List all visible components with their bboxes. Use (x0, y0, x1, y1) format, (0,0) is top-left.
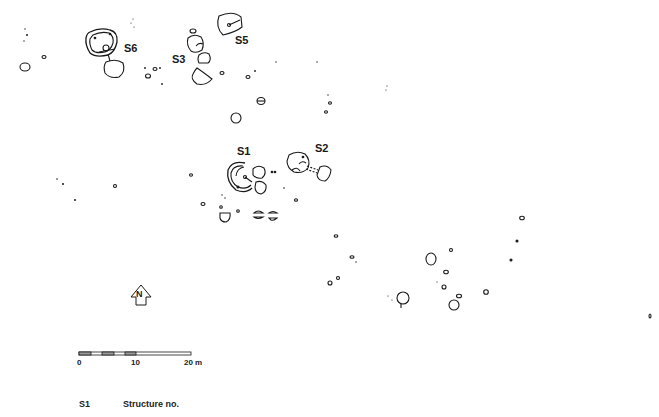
post-holes (20, 56, 651, 319)
scale-tick-20: 20 m (184, 358, 202, 367)
structure-s1-outline (228, 162, 276, 194)
structure-s2-outline (287, 152, 331, 181)
scale-bar (79, 352, 191, 355)
north-label: N (136, 289, 143, 299)
label-s3: S3 (172, 53, 185, 65)
label-s5: S5 (235, 34, 248, 46)
structure-s3-outline (187, 29, 212, 84)
structure-s6-outline (86, 29, 124, 78)
label-s1: S1 (237, 145, 250, 157)
label-s2: S2 (315, 142, 328, 154)
legend-description: Structure no. (123, 399, 179, 409)
scale-tick-10: 10 (131, 358, 140, 367)
dots (23, 18, 437, 300)
structure-s5-outline (218, 13, 242, 35)
legend-key: S1 (79, 399, 90, 409)
label-s6: S6 (124, 42, 137, 54)
site-plan (0, 0, 659, 417)
scale-tick-0: 0 (77, 358, 81, 367)
